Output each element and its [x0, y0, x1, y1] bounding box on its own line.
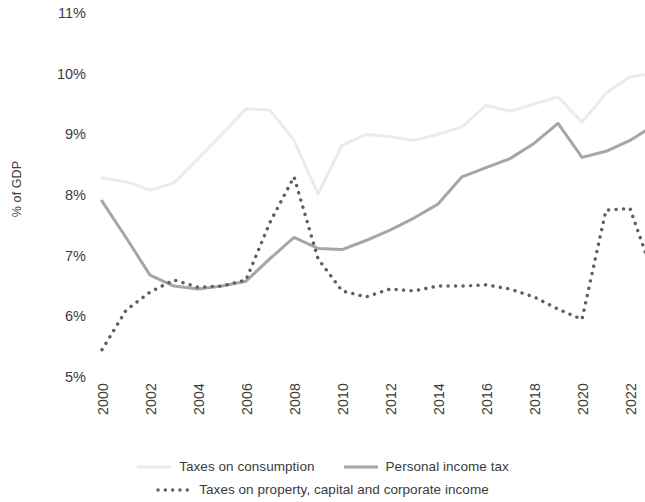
legend-row-bottom: Taxes on property, capital and corporate… — [0, 478, 645, 501]
legend-item-taxes-on-property-capital-corporate-income[interactable]: Taxes on property, capital and corporate… — [156, 482, 489, 497]
legend-label-personal-income-tax: Personal income tax — [386, 459, 509, 474]
legend-item-personal-income-tax[interactable]: Personal income tax — [343, 459, 509, 474]
series-line-taxes-on-property-capital-and-corporate-income — [102, 177, 645, 350]
legend-swatch-line-light — [136, 461, 172, 473]
series-line-personal-income-tax — [102, 123, 645, 289]
tax-revenue-line-chart: % of GDP 11%10%9%8%7%6%5% 20002002200420… — [0, 0, 645, 502]
legend-swatch-line-dotted — [156, 484, 192, 496]
legend-item-taxes-on-consumption[interactable]: Taxes on consumption — [136, 459, 314, 474]
legend-swatch-line-gray — [343, 461, 379, 473]
legend-label-taxes-on-consumption: Taxes on consumption — [179, 459, 314, 474]
plot-area — [0, 0, 645, 502]
legend-label-taxes-on-property-capital-corporate-income: Taxes on property, capital and corporate… — [199, 482, 489, 497]
legend-row-top: Taxes on consumption Personal income tax — [0, 455, 645, 478]
chart-legend: Taxes on consumption Personal income tax — [0, 455, 645, 501]
